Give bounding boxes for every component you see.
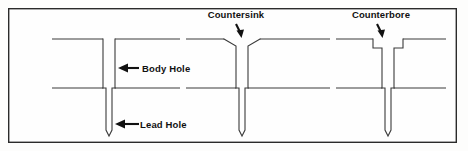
lead-hole-label: Lead Hole: [140, 119, 187, 130]
diagram-frame: [9, 9, 457, 143]
countersink-label: Countersink: [208, 9, 265, 20]
counterbore-label: Counterbore: [352, 9, 410, 20]
diagram-root: Countersink Counterbore Body Hole: [0, 0, 468, 151]
body-hole-label: Body Hole: [142, 63, 190, 74]
screw-hole-types-diagram: Countersink Counterbore Body Hole: [0, 0, 468, 151]
